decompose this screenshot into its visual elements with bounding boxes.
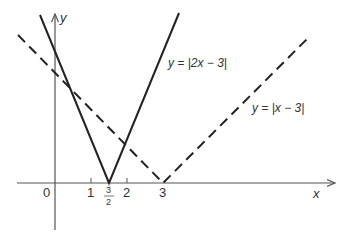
curve-abs-2x-minus-3 [40,13,179,183]
origin-label: 0 [43,185,50,200]
tick-label-2: 2 [123,185,130,200]
tick-label-3-2-den: 2 [106,197,111,207]
curve-label-abs-x-minus-3: y = |x − 3| [251,101,304,115]
x-axis-label: x [312,186,320,201]
tick-label-1: 1 [87,185,94,200]
graph-canvas: y x 0 1 3 2 2 3 y = |2x − 3| y = |x − 3| [0,0,337,243]
tick-label-3-2-num: 3 [106,185,111,195]
y-axis-label: y [59,10,68,25]
curve-label-abs-2x-minus-3: y = |2x − 3| [167,56,227,70]
tick-label-3: 3 [159,185,166,200]
graph-diagram: y x 0 1 3 2 2 3 y = |2x − 3| y = |x − 3| [0,0,337,243]
